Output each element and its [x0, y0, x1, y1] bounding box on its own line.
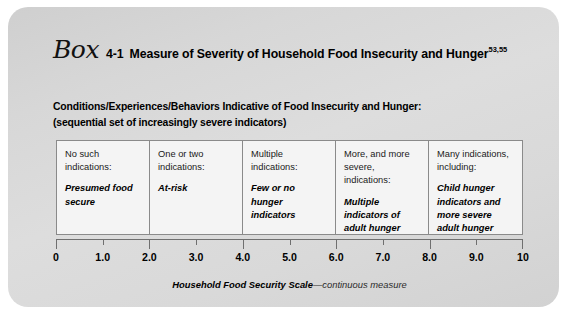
scale-caption: Household Food Security Scale—continuous…: [56, 279, 523, 290]
matrix-column-1-heading: No such indications:: [65, 148, 141, 174]
box-title-superscript: 53,55: [488, 45, 507, 54]
axis-tick-5.0: [290, 239, 291, 245]
axis-tick-label-0: 0: [53, 251, 59, 263]
matrix-column-2-emphasis: At-risk: [158, 182, 234, 195]
axis-tick-8.0: [430, 239, 431, 249]
matrix-column-5: Many indications, including: Child hunge…: [429, 141, 522, 234]
axis-tick-2.0: [149, 239, 150, 249]
scale-caption-strong: Household Food Security Scale: [172, 279, 313, 290]
axis-tick-1.0: [103, 239, 104, 245]
matrix-column-4: More, and more severe, indications: Mult…: [336, 141, 429, 234]
box-subtitle-line-1: Conditions/Experiences/Behaviors Indicat…: [53, 99, 533, 115]
axis-tick-label-4.0: 4.0: [235, 251, 250, 263]
matrix-column-4-emphasis: Multiple indicators of adult hunger: [344, 196, 420, 234]
box-number: 4-1: [106, 47, 123, 61]
axis-tick-label-1.0: 1.0: [95, 251, 110, 263]
axis-tick-9.0: [476, 239, 477, 245]
matrix-column-4-heading: More, and more severe, indications:: [344, 148, 420, 188]
axis-tick-3.0: [196, 239, 197, 245]
axis-tick-label-8.0: 8.0: [422, 251, 437, 263]
matrix-column-1-emphasis: Presumed food secure: [65, 182, 141, 208]
severity-matrix: No such indications: Presumed food secur…: [56, 140, 523, 235]
matrix-column-1: No such indications: Presumed food secur…: [57, 141, 150, 234]
scale-caption-rest: —continuous measure: [313, 279, 407, 290]
matrix-column-3-emphasis: Few or no hunger indicators: [251, 182, 327, 222]
axis-tick-label-10: 10: [517, 251, 529, 263]
axis-tick-label-7.0: 7.0: [376, 251, 391, 263]
matrix-column-3: Multiple indications: Few or no hunger i…: [243, 141, 336, 234]
box-label-word: Box: [53, 35, 99, 64]
axis-tick-label-5.0: 5.0: [282, 251, 297, 263]
box-title-text: Measure of Severity of Household Food In…: [130, 47, 489, 61]
matrix-column-2-heading: One or two indications:: [158, 148, 234, 174]
matrix-column-2: One or two indications: At-risk: [150, 141, 243, 234]
axis-tick-7.0: [383, 239, 384, 245]
box-subtitle-line-2: (sequential set of increasingly severe i…: [53, 115, 533, 131]
axis-tick-10: [522, 239, 523, 249]
axis-tick-label-6.0: 6.0: [329, 251, 344, 263]
scale-axis: 01.02.03.04.05.06.07.08.09.010: [56, 239, 523, 240]
box-title: Box4-1Measure of Severity of Household F…: [53, 37, 539, 67]
matrix-column-5-heading: Many indications, including:: [437, 148, 514, 174]
axis-tick-label-3.0: 3.0: [189, 251, 204, 263]
axis-tick-6.0: [336, 239, 337, 249]
box-subtitle: Conditions/Experiences/Behaviors Indicat…: [53, 99, 533, 130]
axis-tick-4.0: [243, 239, 244, 249]
matrix-column-5-emphasis: Child hunger indicators and more severe …: [437, 182, 514, 234]
axis-tick-label-9.0: 9.0: [469, 251, 484, 263]
box-panel: Box4-1Measure of Severity of Household F…: [8, 7, 559, 307]
matrix-column-3-heading: Multiple indications:: [251, 148, 327, 174]
axis-tick-label-2.0: 2.0: [142, 251, 157, 263]
axis-tick-0: [56, 239, 57, 249]
